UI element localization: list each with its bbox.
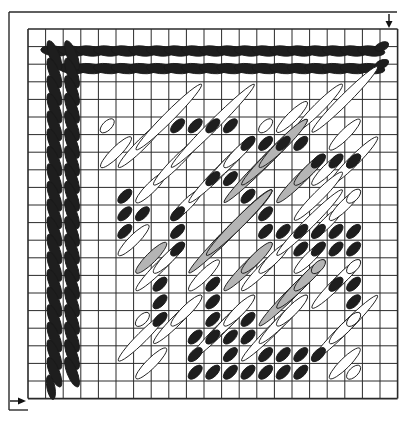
stitch-black [291, 363, 310, 382]
stitch-black [256, 363, 275, 382]
arrow-down-icon [386, 21, 393, 28]
arrow-right-icon [18, 398, 26, 405]
stitch-black [203, 292, 222, 311]
stitch-black [203, 363, 222, 382]
stitch-black [115, 204, 134, 223]
stitch-black [115, 187, 134, 206]
stitch-black [239, 363, 258, 382]
stitch-white [256, 116, 275, 135]
stitch-white [98, 116, 117, 135]
stitch-black [133, 204, 152, 223]
stitch-black [221, 345, 240, 364]
stitch-black [186, 363, 205, 382]
stitch-black [221, 363, 240, 382]
stitch-black [168, 222, 187, 241]
stitch-black [344, 222, 363, 241]
stitch-black [274, 363, 293, 382]
stitch-black [274, 345, 293, 364]
needlepoint-diagram [0, 0, 407, 422]
stitch-black [291, 345, 310, 364]
stitch-black [256, 222, 275, 241]
stitch-black [151, 292, 170, 311]
stitch-black [344, 240, 363, 259]
stitch-black [327, 240, 346, 259]
